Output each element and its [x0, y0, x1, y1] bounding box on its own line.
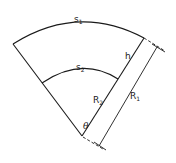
label-theta: θ: [83, 121, 89, 131]
label-r1: R1: [130, 91, 140, 102]
extension-line-bottom: [83, 137, 103, 149]
left-radius-edge: [13, 44, 82, 136]
annular-sector-diagram: s1 s2 h R2 R1 θ: [0, 0, 176, 163]
r1-tick-top: [152, 44, 165, 52]
r1-tick-bottom: [94, 142, 106, 150]
r1-dimension-line: [99, 47, 157, 146]
outer-arc: [13, 22, 144, 44]
label-h: h: [125, 51, 131, 61]
extension-line-top: [144, 38, 165, 51]
label-s1: s1: [74, 14, 83, 25]
label-r2: R2: [93, 95, 103, 106]
label-s2: s2: [76, 62, 85, 73]
